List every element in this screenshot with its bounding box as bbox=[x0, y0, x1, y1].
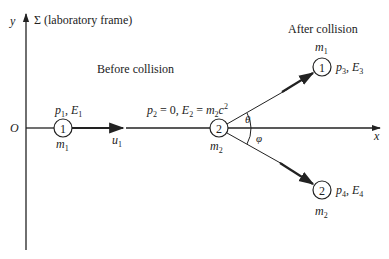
trajectory-particle1 bbox=[227, 89, 288, 124]
theta-label: θ bbox=[245, 113, 251, 125]
y-axis-label: y bbox=[9, 14, 16, 28]
before-collision-title: Before collision bbox=[97, 62, 174, 76]
particle-2-number: 2 bbox=[216, 122, 222, 136]
m2-label-before: m2 bbox=[210, 139, 223, 155]
m2-label-after: m2 bbox=[315, 204, 328, 220]
phi-arc bbox=[247, 128, 251, 144]
frame-label: Σ (laboratory frame) bbox=[34, 13, 132, 27]
after-collision-title: After collision bbox=[288, 22, 358, 36]
p2-e2-label: p2 = 0, E2 = m2c2 bbox=[146, 102, 228, 119]
particle-4-number: 2 bbox=[319, 184, 325, 198]
particle-3-number: 1 bbox=[319, 61, 325, 75]
phi-label: φ bbox=[256, 132, 262, 144]
trajectory-arrow-particle1 bbox=[282, 73, 313, 92]
u1-label: u1 bbox=[112, 133, 122, 149]
origin-label: O bbox=[10, 121, 19, 135]
m1-label-before: m1 bbox=[56, 137, 69, 153]
trajectory-arrow-particle2 bbox=[280, 163, 313, 184]
p4-e4-label: p4, E4 bbox=[335, 183, 363, 199]
particle-1-number: 1 bbox=[60, 122, 66, 136]
x-axis-label: x bbox=[373, 129, 380, 143]
m1-label-after: m1 bbox=[315, 40, 328, 56]
p3-e3-label: p3, E3 bbox=[335, 60, 363, 76]
collision-diagram: 1 2 1 2 y Σ (laboratory frame) O x Befor… bbox=[0, 0, 389, 259]
p1-e1-label: p1, E1 bbox=[54, 103, 82, 119]
